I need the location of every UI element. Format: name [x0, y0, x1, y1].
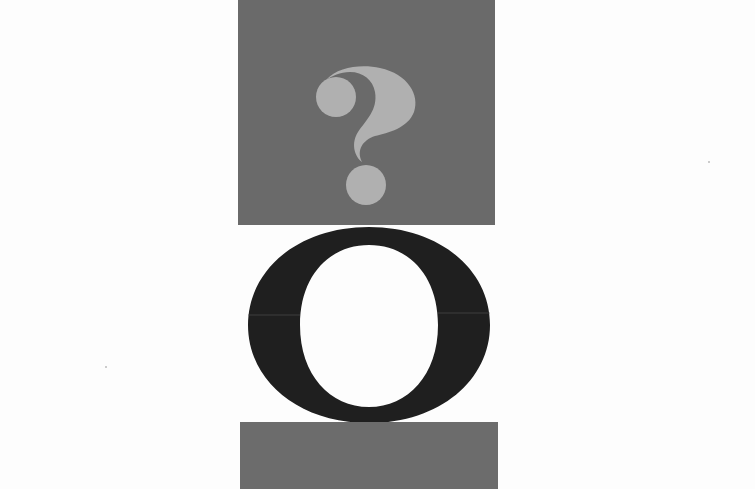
- letter-o-glyph: [238, 225, 500, 423]
- question-mark-icon: [238, 0, 495, 225]
- bottom-gray-panel: [240, 422, 498, 489]
- dust-speck: [708, 161, 710, 163]
- top-gray-panel: [238, 0, 495, 225]
- dust-speck: [105, 366, 107, 368]
